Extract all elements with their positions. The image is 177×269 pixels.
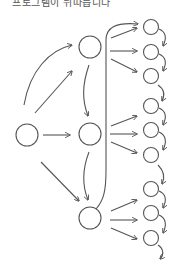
middle-node-3 [79,207,101,229]
leaf-node-7 [144,182,159,197]
edge-curve-root-to-top [24,45,72,105]
leaf-node-9 [144,231,159,246]
chain-6 [158,165,164,184]
leaf-node-1 [144,20,159,35]
chain-2 [159,54,165,71]
leaf-node-4 [144,99,159,114]
edge-m1-l1 [111,28,137,38]
edge-m1-l3 [111,59,137,72]
middle-node-1 [79,36,101,58]
edge-m3-l7 [111,200,137,211]
leaf-node-5 [144,123,159,138]
edge-middle-to-bottom [84,152,89,200]
chain-3 [158,85,164,101]
edge-m2-l4 [111,116,137,126]
leaf-node-6 [144,148,159,163]
edge-m2-l6 [111,142,137,153]
root-node [16,124,38,146]
middle-node-2 [79,123,101,145]
tree-diagram [0,0,177,269]
leaf-node-3 [144,69,159,84]
chain-1 [159,29,165,46]
chain-9 [158,245,163,259]
edge-top-to-middle [84,65,89,116]
chain-5 [159,132,165,150]
leaf-node-2 [144,45,159,60]
leaf-node-8 [144,206,159,221]
edge-root-to-top [35,71,72,113]
chain-8 [159,215,165,233]
edge-root-to-bottom [41,162,79,201]
edge-m3-l9 [111,228,137,239]
chain-7 [159,191,165,208]
chain-4 [159,108,165,125]
